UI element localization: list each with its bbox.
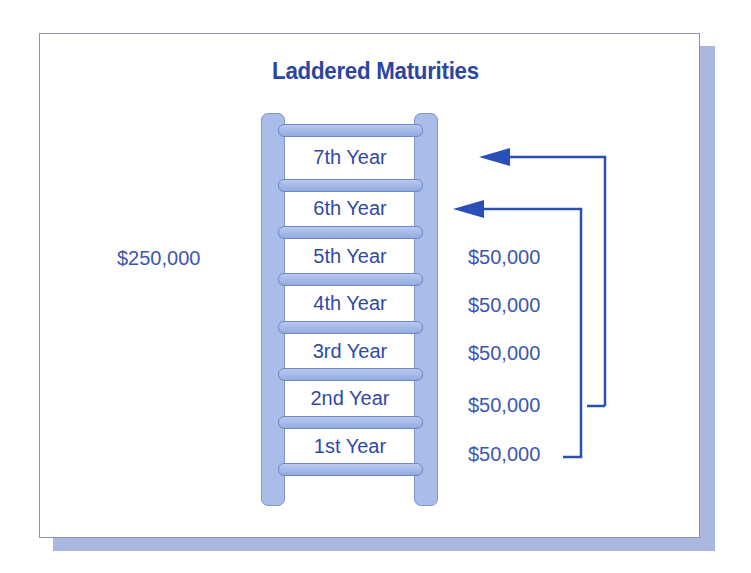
reinvestment-arrows bbox=[0, 0, 751, 573]
arrow-left-icon bbox=[453, 200, 581, 457]
arrow-left-icon bbox=[479, 148, 605, 406]
